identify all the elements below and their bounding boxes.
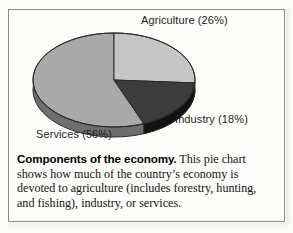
caption-title: Components of the economy.: [17, 152, 177, 165]
figure-caption: Components of the economy. This pie char…: [17, 152, 273, 210]
pie-label-agriculture: Agriculture (26%): [141, 14, 228, 26]
pie-label-industry: Industry (18%): [175, 113, 248, 125]
figure-container: Agriculture (26%) Industry (18%) Service…: [0, 0, 293, 233]
paper-edge-bottom: [8, 223, 288, 230]
pie-slice-agriculture[interactable]: [114, 33, 195, 83]
pie-chart: Agriculture (26%) Industry (18%) Service…: [0, 0, 293, 150]
pie-label-services: Services (56%): [36, 128, 112, 140]
